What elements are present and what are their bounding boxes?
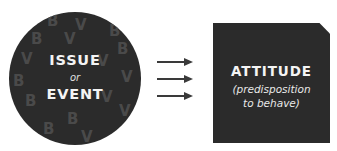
pattern-letter: B: [43, 122, 54, 137]
pattern-letter: V: [64, 32, 76, 47]
pattern-letter: B: [31, 32, 42, 47]
issue-or-event-circle: BVBVBVBVBVBVBVBV ISSUE or EVENT: [9, 12, 141, 145]
arrow-group: [157, 55, 193, 105]
pattern-letter: B: [47, 14, 58, 29]
issue-to-attitude-diagram: BVBVBVBVBVBVBVBV ISSUE or EVENT ATTITUDE…: [0, 0, 337, 151]
right-arrow-icon: [157, 57, 193, 67]
pattern-letter: V: [75, 18, 87, 33]
or-label: or: [9, 72, 141, 83]
pattern-letter: B: [109, 24, 120, 39]
right-arrow-icon: [157, 74, 193, 84]
pattern-letter: V: [81, 130, 93, 145]
pattern-letter: V: [119, 104, 131, 119]
attitude-subtitle-line2: to behave): [213, 97, 330, 109]
issue-label: ISSUE: [9, 52, 141, 68]
pattern-letter: B: [67, 112, 78, 127]
attitude-square: ATTITUDE (predisposition to behave): [213, 23, 330, 143]
right-arrow-icon: [157, 91, 193, 101]
attitude-title: ATTITUDE: [213, 63, 330, 79]
event-label: EVENT: [9, 86, 141, 102]
attitude-subtitle-line1: (predisposition: [213, 83, 330, 95]
